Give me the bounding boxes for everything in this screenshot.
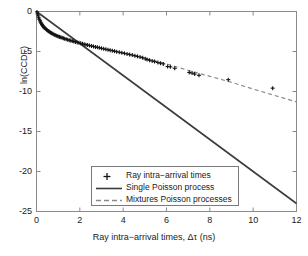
legend-label-dashed: Mixtures Poisson processes: [126, 193, 232, 206]
plot-svg: [0, 0, 308, 256]
y-axis-label: ln(CCDF): [19, 15, 29, 115]
y-tick-label: 0: [8, 6, 32, 16]
x-axis-label: Ray intra−arrival times, Δτ (ns): [0, 232, 308, 242]
x-tick-label: 12: [291, 215, 303, 225]
y-tick-label: -10: [8, 86, 32, 96]
x-tick-label: 6: [161, 215, 173, 225]
y-tick-label: -15: [8, 126, 32, 136]
x-tick-label: 8: [204, 215, 216, 225]
y-tick-label: -20: [8, 166, 32, 176]
x-tick-label: 0: [31, 215, 43, 225]
x-tick-label: 4: [117, 215, 129, 225]
y-tick-label: -5: [8, 46, 32, 56]
y-tick-label: -25: [8, 206, 32, 216]
dashed-line-icon: [92, 193, 126, 206]
legend: Ray intra−arrival times Single Poisson p…: [91, 166, 239, 206]
figure-canvas: ln(CCDF) Ray intra−arrival times, Δτ (ns…: [0, 0, 308, 256]
x-tick-label: 10: [247, 215, 259, 225]
legend-item-dashed: Mixtures Poisson processes: [92, 193, 240, 206]
x-tick-label: 2: [74, 215, 86, 225]
